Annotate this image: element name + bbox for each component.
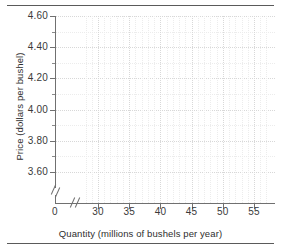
gridline-vertical-minor (210, 16, 211, 203)
x-axis-title: Quantity (millions of bushels per year) (0, 228, 281, 239)
gridline-vertical-minor (173, 16, 174, 203)
y-axis-tick (50, 47, 55, 48)
gridline-vertical-minor (92, 16, 93, 203)
gridline-vertical-minor (104, 16, 105, 203)
gridline-vertical-minor (229, 16, 230, 203)
gridline-horizontal-major (56, 16, 275, 17)
gridline-vertical-minor (148, 16, 149, 203)
gridline-horizontal-minor (56, 156, 275, 157)
y-axis-tick (50, 172, 55, 173)
gridline-horizontal-major (56, 172, 275, 173)
gridline-vertical-minor (185, 16, 186, 203)
top-divider-rule (7, 5, 274, 6)
gridline-horizontal-major (56, 78, 275, 79)
gridline-horizontal-minor (56, 32, 275, 33)
gridline-vertical-minor (123, 16, 124, 203)
gridline-vertical-minor (167, 16, 168, 203)
gridline-horizontal-major (56, 110, 275, 111)
gridline-vertical-minor (248, 16, 249, 203)
gridline-vertical-minor (86, 16, 87, 203)
gridline-horizontal-major (56, 141, 275, 142)
gridline-horizontal-minor (56, 94, 275, 95)
x-axis-tick-label: 40 (143, 206, 177, 217)
gridline-vertical-major (129, 16, 130, 203)
x-axis-spine (55, 203, 275, 204)
gridline-vertical-major (223, 16, 224, 203)
gridline-vertical-minor (217, 16, 218, 203)
y-axis-tick (50, 141, 55, 142)
gridline-vertical-major (192, 16, 193, 203)
x-axis-tick-label: 30 (81, 206, 115, 217)
gridline-vertical-minor (204, 16, 205, 203)
x-axis-break-icon (68, 196, 86, 210)
y-axis-tick-minor (52, 125, 55, 126)
gridline-vertical-minor (266, 16, 267, 203)
gridline-vertical-minor (154, 16, 155, 203)
gridline-vertical-major (98, 16, 99, 203)
gridline-vertical-minor (235, 16, 236, 203)
gridline-vertical-minor (142, 16, 143, 203)
y-axis-tick (50, 16, 55, 17)
gridline-vertical-minor (110, 16, 111, 203)
y-axis-tick-minor (52, 63, 55, 64)
x-axis-tick-label: 35 (112, 206, 146, 217)
x-axis-tick-label: 50 (206, 206, 240, 217)
y-axis-spine (55, 16, 56, 188)
gridline-vertical-minor (198, 16, 199, 203)
gridline-vertical-minor (135, 16, 136, 203)
gridline-vertical-minor (242, 16, 243, 203)
y-axis-tick-minor (52, 94, 55, 95)
gridline-vertical-major (254, 16, 255, 203)
gridline-horizontal-minor (56, 125, 275, 126)
gridline-vertical-minor (117, 16, 118, 203)
y-axis-tick (50, 110, 55, 111)
gridline-vertical-major (160, 16, 161, 203)
gridline-vertical-minor (179, 16, 180, 203)
x-axis-tick-label: 55 (237, 206, 271, 217)
y-axis-title: Price (dollars per bushel) (14, 17, 25, 197)
y-axis-tick-minor (52, 156, 55, 157)
y-axis-tick-minor (52, 32, 55, 33)
y-axis-tick (50, 78, 55, 79)
gridline-horizontal-minor (56, 63, 275, 64)
y-axis-break-icon (48, 183, 64, 199)
gridline-vertical-minor (260, 16, 261, 203)
x-axis-tick-label: 45 (175, 206, 209, 217)
plot-area (56, 16, 275, 203)
x-axis-tick-label: 0 (38, 206, 72, 217)
chart-figure: 4.604.404.204.003.803.60 0303540455055 P… (0, 0, 281, 250)
gridline-horizontal-major (56, 47, 275, 48)
bottom-divider-rule (7, 243, 274, 244)
